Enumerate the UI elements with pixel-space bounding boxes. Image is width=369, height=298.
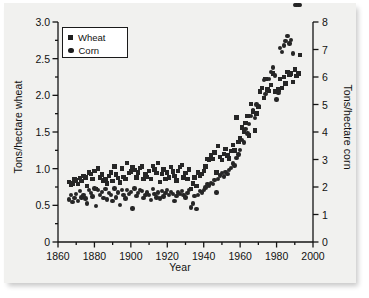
wheat-data-point	[263, 77, 267, 81]
y-axis-left-tick-label: 0	[16, 236, 50, 248]
wheat-data-point	[220, 158, 224, 162]
wheat-data-point	[262, 96, 266, 100]
wheat-data-point	[238, 136, 242, 140]
corn-data-point	[211, 182, 215, 186]
wheat-data-point	[118, 180, 122, 184]
wheat-data-point	[234, 115, 238, 119]
y-axis-right-tick-label: 7	[322, 44, 356, 56]
wheat-data-point	[174, 178, 178, 182]
wheat-data-point	[94, 187, 98, 191]
wheat-data-point	[154, 171, 158, 175]
wheat-data-point	[280, 86, 284, 90]
wheat-data-point	[105, 181, 109, 185]
wheat-data-point	[165, 170, 169, 174]
wheat-data-point	[109, 170, 113, 174]
scatter-chart: Tons/hectare wheat Tons/hectare corn Yea…	[4, 3, 356, 283]
wheat-data-point	[136, 170, 140, 174]
wheat-data-point	[260, 86, 264, 90]
y-axis-right-tick-label: 2	[322, 181, 356, 193]
corn-data-point	[191, 201, 195, 205]
corn-data-point	[253, 116, 257, 120]
wheat-data-point	[242, 130, 246, 134]
wheat-data-point	[90, 177, 94, 181]
wheat-data-point	[120, 166, 124, 170]
wheat-data-point	[282, 75, 286, 79]
wheat-data-point	[185, 177, 189, 181]
y-axis-right-tick-label: 5	[322, 99, 356, 111]
y-axis-right-tick-label: 0	[322, 236, 356, 248]
corn-data-point	[274, 97, 278, 101]
corn-data-point	[282, 43, 286, 47]
corn-data-point	[189, 205, 193, 209]
wheat-data-point	[180, 163, 184, 167]
corn-data-point	[225, 172, 229, 176]
wheat-data-point	[167, 175, 171, 179]
x-axis-tick-label: 2000	[291, 250, 335, 262]
wheat-data-point	[83, 175, 87, 179]
wheat-data-point	[216, 144, 220, 148]
wheat-data-point	[249, 102, 253, 106]
wheat-data-point	[245, 114, 249, 118]
wheat-data-point	[243, 121, 247, 125]
corn-data-point	[123, 196, 127, 200]
wheat-data-point	[283, 81, 287, 85]
legend-item-wheat: Wheat	[68, 31, 105, 44]
y-axis-left-tick-label: 2.5	[16, 53, 50, 65]
wheat-data-point	[160, 172, 164, 176]
corn-data-point	[132, 186, 136, 190]
legend-label-corn: Corn	[79, 46, 100, 56]
wheat-data-point	[140, 164, 144, 168]
corn-data-point	[291, 51, 295, 55]
chart-axes	[4, 3, 356, 283]
wheat-data-point	[149, 177, 153, 181]
wheat-data-point	[269, 83, 273, 87]
wheat-data-point	[96, 166, 100, 170]
x-axis-title: Year	[4, 261, 356, 273]
y-axis-left-tick-label: 0.5	[16, 199, 50, 211]
y-axis-left-tick-label: 3.0	[16, 16, 50, 28]
wheat-data-point	[214, 170, 218, 174]
y-axis-left-tick-label: 1.0	[16, 163, 50, 175]
wheat-data-point	[223, 147, 227, 151]
corn-data-point	[271, 65, 275, 69]
wheat-data-point	[203, 164, 207, 168]
wheat-data-point	[253, 128, 257, 132]
figure-card: Tons/hectare wheat Tons/hectare corn Yea…	[4, 3, 356, 283]
wheat-data-point	[267, 89, 271, 93]
wheat-data-point	[254, 111, 258, 115]
wheat-data-point	[158, 180, 162, 184]
corn-data-point	[130, 206, 134, 210]
chart-legend: Wheat Corn	[62, 27, 128, 58]
y-axis-right-tick-label: 1	[322, 209, 356, 221]
corn-data-point	[232, 163, 236, 167]
corn-data-point	[214, 190, 218, 194]
corn-data-point	[236, 152, 240, 156]
wheat-data-point	[123, 177, 127, 181]
corn-data-point	[183, 195, 187, 199]
wheat-data-point	[134, 175, 138, 179]
wheat-data-point	[147, 169, 151, 173]
wheat-data-point	[112, 164, 116, 168]
wheat-marker-icon	[68, 35, 73, 40]
wheat-data-point	[187, 167, 191, 171]
y-axis-right-tick-label: 4	[322, 126, 356, 138]
wheat-data-point	[125, 161, 129, 165]
wheat-data-point	[211, 157, 215, 161]
corn-data-point	[85, 201, 89, 205]
wheat-data-point	[232, 148, 236, 152]
corn-marker-icon	[68, 48, 74, 54]
wheat-data-point	[194, 184, 198, 188]
wheat-data-point	[296, 71, 300, 75]
y-axis-right-tick-label: 3	[322, 154, 356, 166]
corn-data-point	[194, 207, 198, 211]
wheat-data-point	[85, 184, 89, 188]
wheat-data-point	[110, 179, 114, 183]
corn-data-point	[83, 196, 87, 200]
wheat-data-point	[231, 143, 235, 147]
wheat-data-point	[227, 156, 231, 160]
legend-label-wheat: Wheat	[78, 33, 105, 43]
y-axis-left-tick-label: 2.0	[16, 89, 50, 101]
corn-data-point	[172, 199, 176, 203]
y-axis-right-tick-label: 6	[322, 71, 356, 83]
wheat-data-point	[298, 53, 302, 57]
